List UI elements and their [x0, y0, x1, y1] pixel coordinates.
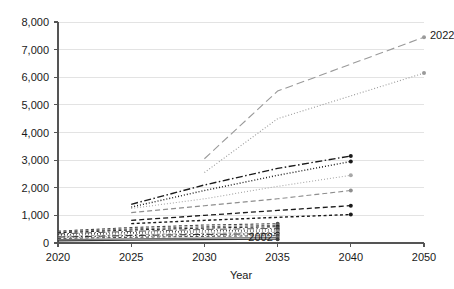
y-axis-tick-label: 8,000 [0, 16, 49, 28]
y-axis-tick-label: 6,000 [0, 71, 49, 83]
series-line [131, 162, 351, 208]
series-endpoint-marker [349, 204, 353, 208]
y-axis-tick-label: 0 [0, 237, 49, 249]
x-axis-title: Year [230, 269, 252, 281]
chart-annotation-label: 2002 [248, 231, 272, 243]
y-axis-tick-label: 1,000 [0, 209, 49, 221]
series-endpoint-marker [349, 189, 353, 193]
chart-annotation-label: 2022 [430, 29, 454, 41]
x-axis-tick-label: 2050 [412, 251, 436, 263]
series-line [131, 206, 351, 221]
series-line [204, 73, 424, 172]
series-line [131, 156, 351, 204]
series-endpoint-marker [349, 173, 353, 177]
series-endpoint-marker [422, 71, 426, 75]
y-axis-tick-label: 3,000 [0, 154, 49, 166]
y-axis-tick-label: 7,000 [0, 44, 49, 56]
series-endpoint-marker [349, 160, 353, 164]
series-line [131, 175, 351, 208]
y-axis-tick-label: 4,000 [0, 127, 49, 139]
series-line [131, 215, 351, 224]
x-axis-tick-label: 2020 [46, 251, 70, 263]
series-endpoint-marker [349, 154, 353, 158]
x-axis-tick-label: 2030 [192, 251, 216, 263]
series-endpoint-marker [276, 237, 280, 241]
y-axis-tick-label: 5,000 [0, 99, 49, 111]
x-axis-tick-label: 2025 [119, 251, 143, 263]
x-axis-tick-label: 2040 [339, 251, 363, 263]
y-axis-tick-label: 2,000 [0, 182, 49, 194]
series-endpoint-marker [422, 35, 426, 39]
series-line [131, 191, 351, 213]
series-endpoint-marker [349, 213, 353, 217]
x-axis-tick-label: 2035 [265, 251, 289, 263]
series-line [204, 37, 424, 159]
series-line [58, 225, 278, 232]
